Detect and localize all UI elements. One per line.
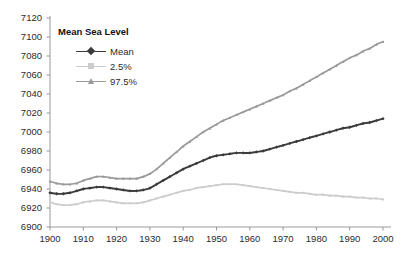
data-point	[275, 189, 277, 191]
data-point	[156, 198, 158, 200]
x-tick-label: 1900	[33, 233, 67, 244]
x-tick-label: 2000	[366, 233, 400, 244]
y-tick-label: 6980	[8, 145, 42, 156]
data-point	[56, 203, 58, 205]
data-point	[249, 185, 251, 187]
x-tick-label: 1910	[66, 233, 100, 244]
data-point	[142, 201, 144, 203]
data-point	[89, 200, 91, 202]
legend-key-mean	[76, 46, 106, 57]
legend-label-upper: 97.5%	[110, 76, 137, 87]
x-tick-label: 1980	[299, 233, 333, 244]
data-point	[128, 189, 131, 192]
y-tick-label: 7040	[8, 88, 42, 99]
x-tick-label: 1940	[166, 233, 200, 244]
data-point	[69, 204, 71, 206]
data-point	[375, 198, 377, 200]
legend-label-lower: 2.5%	[110, 61, 132, 72]
data-point	[196, 187, 198, 189]
x-tick-label: 1950	[200, 233, 234, 244]
data-point	[55, 192, 58, 195]
data-point	[202, 186, 204, 188]
data-point	[235, 151, 238, 154]
legend-label-mean: Mean	[110, 46, 134, 57]
data-point	[136, 202, 138, 204]
y-tick-label: 7080	[8, 50, 42, 61]
y-tick-label: 6900	[8, 221, 42, 232]
x-tick-label: 1930	[133, 233, 167, 244]
x-tick-label: 1990	[333, 233, 367, 244]
data-point	[309, 193, 311, 195]
data-point	[82, 201, 84, 203]
legend-key-lower	[76, 61, 106, 72]
data-point	[116, 201, 118, 203]
data-point	[322, 194, 324, 196]
data-point	[242, 151, 245, 154]
data-point	[362, 197, 364, 199]
mean-sea-level-chart: Mean Sea Level Mean 2.5% 97.5% 690069206…	[0, 0, 405, 255]
data-point	[122, 188, 125, 191]
square-marker-icon	[88, 63, 94, 69]
data-point	[176, 192, 178, 194]
data-point	[269, 188, 271, 190]
data-point	[129, 202, 131, 204]
data-point	[235, 183, 237, 185]
data-point	[222, 183, 224, 185]
legend-item-mean: Mean	[76, 44, 178, 59]
legend-title: Mean Sea Level	[58, 26, 178, 37]
x-tick-label: 1920	[100, 233, 134, 244]
legend-item-upper: 97.5%	[76, 74, 178, 89]
chart-legend: Mean Sea Level Mean 2.5% 97.5%	[58, 26, 178, 89]
series-mean	[48, 117, 384, 195]
triangle-marker-icon	[88, 78, 94, 84]
data-point	[95, 185, 98, 188]
y-tick-label: 7000	[8, 126, 42, 137]
data-point	[76, 203, 78, 205]
data-point	[209, 185, 211, 187]
data-point	[255, 150, 258, 153]
data-point	[216, 184, 218, 186]
data-point	[329, 195, 331, 197]
data-point	[382, 198, 384, 200]
data-point	[62, 204, 64, 206]
data-point	[248, 151, 251, 154]
data-point	[88, 186, 91, 189]
data-point	[342, 196, 344, 198]
data-point	[282, 190, 284, 192]
data-point	[122, 202, 124, 204]
data-point	[62, 192, 65, 195]
data-point	[102, 199, 104, 201]
y-tick-label: 6960	[8, 164, 42, 175]
data-point	[335, 195, 337, 197]
data-point	[228, 152, 231, 155]
diamond-marker-icon	[87, 47, 95, 55]
y-tick-label: 7120	[8, 12, 42, 23]
x-tick-label: 1960	[233, 233, 267, 244]
data-point	[229, 183, 231, 185]
data-point	[355, 197, 357, 199]
y-tick-label: 6920	[8, 202, 42, 213]
y-tick-label: 7060	[8, 69, 42, 80]
data-point	[242, 184, 244, 186]
data-point	[255, 186, 257, 188]
data-point	[182, 190, 184, 192]
data-point	[315, 194, 317, 196]
y-tick-label: 7100	[8, 31, 42, 42]
data-point	[149, 199, 151, 201]
y-tick-label: 7020	[8, 107, 42, 118]
legend-item-lower: 2.5%	[76, 59, 178, 74]
data-point	[295, 192, 297, 194]
data-point	[109, 200, 111, 202]
x-tick-label: 1970	[266, 233, 300, 244]
data-point	[222, 153, 225, 156]
data-point	[189, 189, 191, 191]
data-point	[135, 189, 138, 192]
data-point	[302, 192, 304, 194]
data-point	[96, 199, 98, 201]
data-point	[162, 196, 164, 198]
data-point	[369, 198, 371, 200]
data-point	[108, 186, 111, 189]
legend-key-upper	[76, 76, 106, 87]
data-point	[349, 196, 351, 198]
data-point	[169, 194, 171, 196]
